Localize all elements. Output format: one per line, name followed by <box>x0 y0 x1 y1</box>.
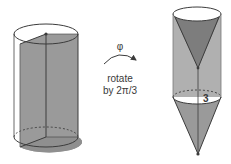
rotate-label-line2: by 2π/3 <box>103 85 138 96</box>
shaded-wedge <box>20 34 82 152</box>
lower-cone <box>173 97 221 154</box>
rotation-arrow <box>104 55 136 64</box>
left-cylinder <box>14 24 82 152</box>
upper-apex-point <box>197 67 200 70</box>
rotation-transform: φ rotate by 2π/3 <box>103 41 138 96</box>
top-opening <box>173 7 221 21</box>
diagram-canvas: φ rotate by 2π/3 3 <box>0 0 231 164</box>
rotate-label-line1: rotate <box>107 73 133 84</box>
axis-top-point <box>44 32 47 35</box>
phi-symbol: φ <box>117 41 124 52</box>
lower-apex-point <box>196 152 199 155</box>
right-figure: 3 <box>173 7 221 156</box>
radius-label: 3 <box>203 93 209 104</box>
